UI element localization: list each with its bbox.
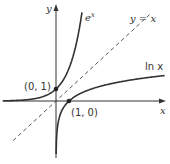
- function-graph: y x ex y = x ln x (0, 1) (1, 0): [0, 0, 170, 164]
- x-axis-label: x: [160, 106, 166, 116]
- identity-line-label: y = x: [130, 14, 156, 24]
- ln-curve-label: ln x: [145, 62, 163, 72]
- exp-curve-label: ex: [85, 12, 95, 23]
- identity-line: [13, 15, 150, 141]
- y-axis-label: y: [46, 4, 52, 14]
- point-0-1-label: (0, 1): [24, 82, 51, 92]
- point-1-0-label: (1, 0): [71, 108, 98, 118]
